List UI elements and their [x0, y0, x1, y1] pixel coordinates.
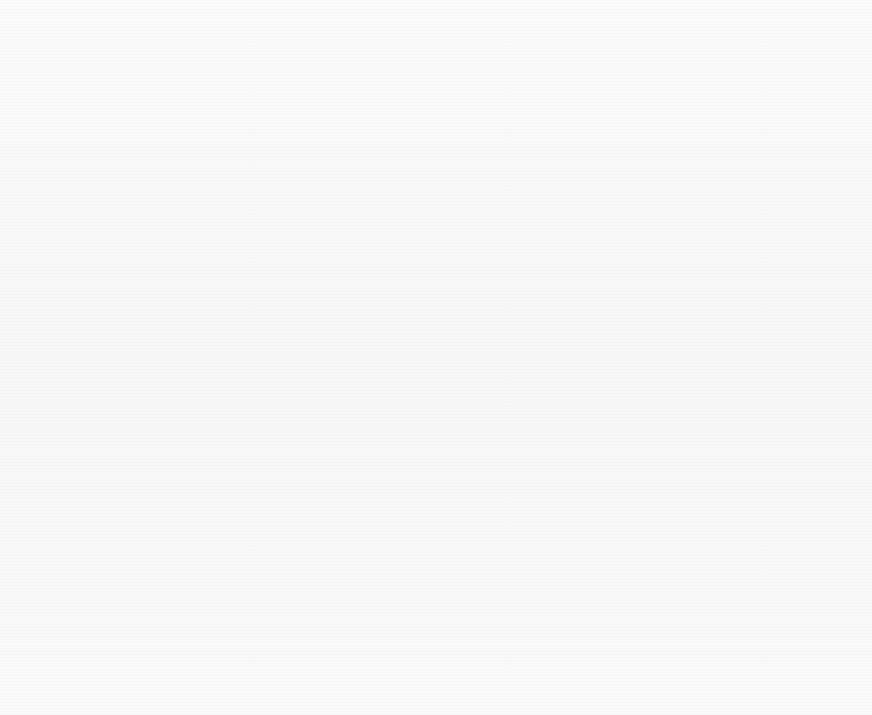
legend-label: Öffentlicher Dienst: [384, 544, 503, 560]
x-tick-label: 2010: [428, 502, 508, 519]
chart: 02468101214161820 2005200620072008200920…: [43, 116, 829, 534]
series-line: [118, 158, 818, 439]
figure-source: Quelle: Dummert/Hohendanner (2016: 12). …: [43, 630, 636, 645]
series-lines: [118, 128, 818, 498]
legend-label: Dritter Sektor: [649, 544, 734, 560]
data-point-label: 16,7: [108, 199, 137, 216]
legend-item[interactable]: Öffentlicher Dienst: [323, 544, 503, 560]
y-tick-label: 8: [77, 341, 123, 359]
legend-item[interactable]: Privatwirtschaft: [93, 544, 252, 560]
data-point-label: 0,2: [784, 466, 805, 483]
legend-swatch-dotted: [93, 551, 145, 554]
data-point-label: 18,0: [108, 139, 137, 156]
data-point-label: 3,3: [786, 441, 807, 458]
legend-item[interactable]: Dritter Sektor: [588, 544, 734, 560]
y-tick-label: 4: [77, 415, 123, 433]
x-tick-label: 2009: [358, 502, 438, 519]
y-tick-label: 20: [77, 119, 123, 137]
y-tick-label: 2: [77, 452, 123, 470]
figure-number: Abbildung 6.7: [43, 42, 133, 58]
figure-card: Abbildung 6.7 Entwicklung des Anteils de…: [25, 28, 847, 688]
series-line: [118, 147, 818, 406]
legend-swatch-dashed: [323, 551, 375, 554]
y-tick-label: 6: [77, 378, 123, 396]
x-tick-label: 2012: [568, 502, 648, 519]
data-point-label: 0,2: [108, 468, 129, 485]
x-tick-label: 2011: [498, 502, 578, 519]
y-tick-label: 12: [77, 267, 123, 285]
data-point-label: 6,2: [786, 355, 807, 372]
x-tick-label: 2007: [218, 502, 298, 519]
x-tick-label: 2015: [778, 502, 858, 519]
figure-note: Details der sektoralen Abgrenzung siehe …: [43, 600, 454, 615]
legend-label: Privatwirtschaft: [154, 544, 252, 560]
y-tick-label: 18: [77, 156, 123, 174]
x-tick-label: 2013: [638, 502, 718, 519]
legend-swatch-solid: [588, 551, 640, 554]
series-line: [118, 492, 818, 494]
x-tick-label: 2006: [148, 502, 228, 519]
x-tick-label: 2005: [78, 502, 158, 519]
figure-page: Abbildung 6.7 Entwicklung des Anteils de…: [0, 0, 872, 715]
x-tick-label: 2008: [288, 502, 368, 519]
gridline-vertical: [818, 128, 820, 498]
x-tick-label: 2014: [708, 502, 788, 519]
legend: PrivatwirtschaftÖffentlicher DienstDritt…: [43, 544, 829, 572]
y-tick-label: 10: [77, 304, 123, 322]
gridline-horizontal: [118, 498, 818, 500]
figure-title: Entwicklung des Anteils der Betriebe mit…: [43, 72, 833, 90]
y-tick-label: 14: [77, 230, 123, 248]
